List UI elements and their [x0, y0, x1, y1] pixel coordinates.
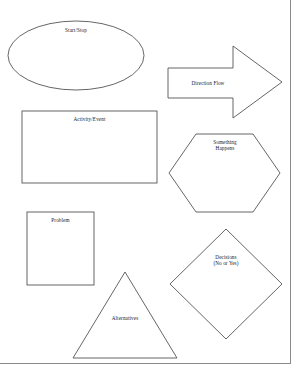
shape-rectangle-activity-event[interactable]: [22, 111, 157, 183]
shape-hexagon-something-happens[interactable]: [169, 134, 280, 212]
shape-canvas: [0, 0, 297, 377]
shape-arrow-direction-flow[interactable]: [168, 46, 282, 118]
shape-diamond-decisions[interactable]: [170, 229, 282, 339]
shape-ellipse-start-stop[interactable]: [8, 21, 144, 90]
flowchart-legend-page: Start/Stop Direction Flow Activity/Event…: [0, 0, 297, 377]
shape-square-problem[interactable]: [27, 212, 94, 285]
